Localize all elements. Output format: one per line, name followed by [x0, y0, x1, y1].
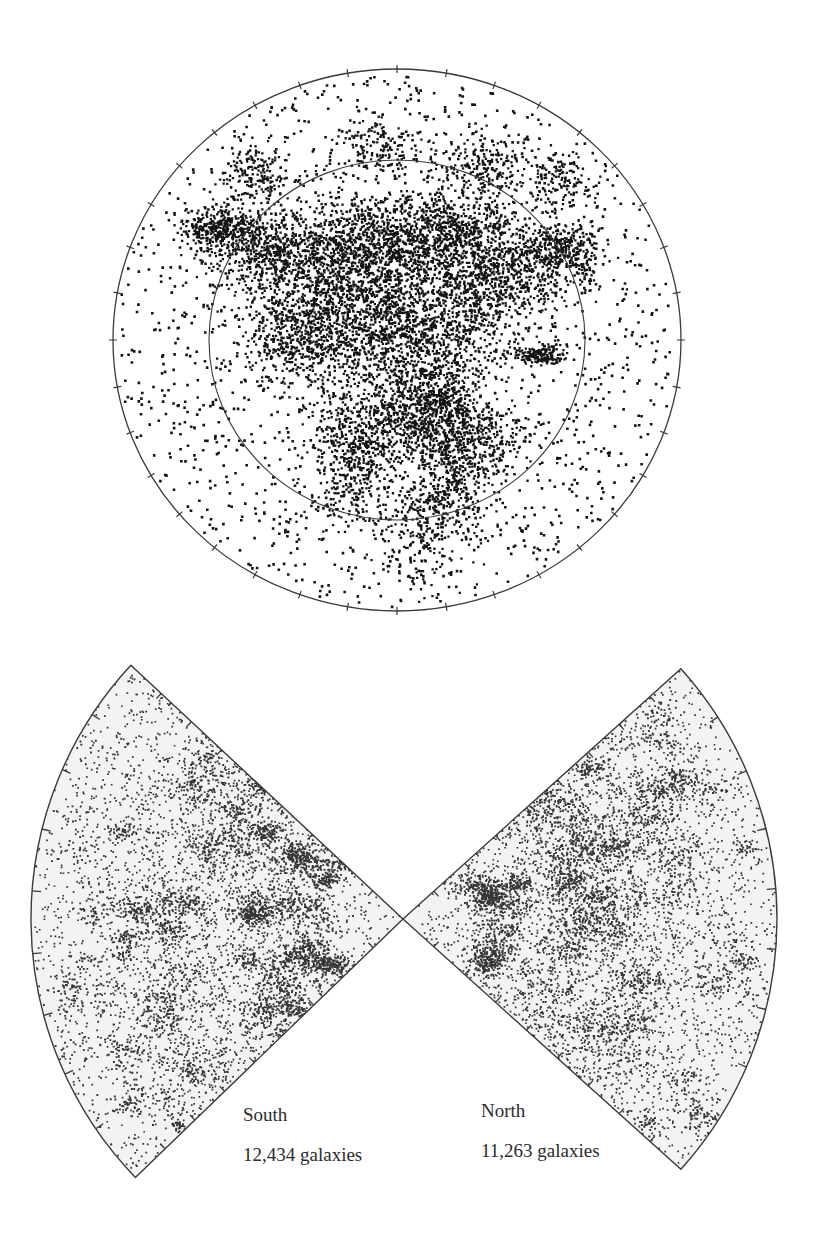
north-galaxy-count: 11,263 galaxies: [481, 1141, 600, 1160]
figure-canvas: [0, 0, 821, 1239]
south-galaxy-count: 12,434 galaxies: [243, 1145, 362, 1164]
north-region-label: North: [481, 1101, 525, 1120]
north-wedge-background: [403, 669, 777, 1170]
sky-galaxy-points: [121, 76, 672, 608]
south-region-label: South: [243, 1105, 287, 1124]
sky-map-circle-plot: [109, 65, 685, 615]
south-wedge-plot: [26, 665, 403, 1177]
north-wedge-plot: [403, 669, 784, 1170]
galaxy-survey-figure: South 12,434 galaxies North 11,263 galax…: [0, 0, 821, 1239]
